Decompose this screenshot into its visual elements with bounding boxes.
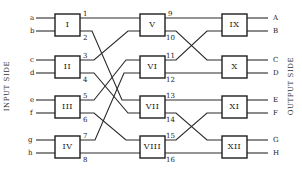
input-g: g xyxy=(28,136,33,144)
input-c: c xyxy=(30,56,34,64)
stage-2: V VI VII VIII xyxy=(140,14,165,158)
link-9: 9 xyxy=(168,10,172,18)
switch-label-III: III xyxy=(62,102,73,111)
output-H: H xyxy=(273,149,279,157)
switch-label-VII: VII xyxy=(145,102,160,111)
output-B: B xyxy=(273,27,278,35)
input-b: b xyxy=(30,27,35,35)
link-1: 1 xyxy=(83,10,87,18)
input-h: h xyxy=(28,149,33,157)
switch-label-I: I xyxy=(66,20,70,29)
input-side-label: INPUT SIDE xyxy=(3,61,11,112)
output-G: G xyxy=(273,136,279,144)
link-14: 14 xyxy=(166,116,175,124)
output-F: F xyxy=(273,109,278,117)
switch-label-II: II xyxy=(64,62,71,71)
output-E: E xyxy=(273,96,278,104)
stage1-to-stage2-links xyxy=(80,18,140,153)
link-15: 15 xyxy=(166,132,175,140)
link-6: 6 xyxy=(83,116,88,124)
switch-label-VIII: VIII xyxy=(143,142,161,151)
stage-1: I II III IV xyxy=(55,14,80,158)
input-d: d xyxy=(30,69,35,77)
link-3: 3 xyxy=(83,52,87,60)
output-C: C xyxy=(273,56,278,64)
link-2: 2 xyxy=(83,34,87,42)
output-labels: A B C D E F G H xyxy=(272,14,279,157)
switch-label-VI: VI xyxy=(147,62,158,71)
input-e: e xyxy=(30,96,34,104)
link-7: 7 xyxy=(83,132,87,140)
input-labels: a b c d e f g h xyxy=(28,14,35,157)
link-10: 10 xyxy=(166,34,175,42)
switch-label-X: X xyxy=(231,62,237,71)
input-a: a xyxy=(30,14,34,22)
switch-label-XII: XII xyxy=(228,142,242,151)
link-16: 16 xyxy=(166,156,175,164)
link-11: 11 xyxy=(166,52,175,60)
link-4: 4 xyxy=(83,76,88,84)
switch-label-XI: XI xyxy=(230,102,240,111)
link-12: 12 xyxy=(166,76,175,84)
link-numbers-stage1: 1 2 3 4 5 6 7 8 xyxy=(83,10,88,164)
output-D: D xyxy=(273,69,279,77)
diagram-svg: INPUT SIDE OUTPUT SIDE a b c d e f g h xyxy=(0,0,302,171)
link-5: 5 xyxy=(83,92,87,100)
stage-3: IX X XI XII xyxy=(222,14,247,158)
link-8: 8 xyxy=(83,156,87,164)
input-wires xyxy=(36,18,55,153)
input-f: f xyxy=(30,109,34,117)
switch-label-IX: IX xyxy=(230,20,240,29)
link-numbers-stage2: 9 10 11 12 13 14 15 16 xyxy=(166,10,175,164)
output-wires xyxy=(247,18,268,153)
link-13: 13 xyxy=(166,92,175,100)
output-side-label: OUTPUT SIDE xyxy=(287,57,295,116)
switch-label-IV: IV xyxy=(63,142,73,151)
switch-label-V: V xyxy=(148,20,155,29)
output-A: A xyxy=(272,14,279,22)
switching-network-diagram: INPUT SIDE OUTPUT SIDE a b c d e f g h xyxy=(0,0,302,171)
